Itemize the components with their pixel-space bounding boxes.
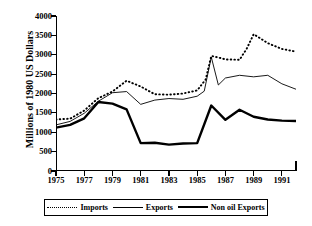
legend-item-exports: Exports xyxy=(113,203,173,212)
legend-label-imports: Imports xyxy=(80,203,108,212)
y-tick-label: 1500 xyxy=(16,108,52,117)
y-tick-label: 500 xyxy=(16,147,52,156)
legend-swatch-thick-line-icon xyxy=(178,205,208,211)
legend-label-exports: Exports xyxy=(146,203,173,212)
x-tick-label: 1991 xyxy=(262,176,302,185)
series-line-non-oil-exports xyxy=(56,102,296,145)
chart-legend: Imports Exports Non oil Exports xyxy=(44,199,268,216)
legend-label-non-oil-exports: Non oil Exports xyxy=(211,203,265,212)
legend-item-non-oil-exports: Non oil Exports xyxy=(178,203,265,212)
series-line-exports xyxy=(56,57,296,125)
legend-swatch-thin-line-icon xyxy=(113,205,143,211)
y-tick-label: 4000 xyxy=(16,12,52,21)
y-tick-label: 0 xyxy=(16,167,52,176)
y-tick-label: 1000 xyxy=(16,128,52,137)
chart-figure: Millions of 1980 US Dollars 050010001500… xyxy=(0,0,312,226)
legend-item-imports: Imports xyxy=(47,203,108,212)
y-tick-label: 3000 xyxy=(16,50,52,59)
chart-series-lines xyxy=(56,16,296,172)
y-tick-label: 2500 xyxy=(16,70,52,79)
y-tick-label: 3500 xyxy=(16,31,52,40)
legend-swatch-dotted-line-icon xyxy=(47,205,77,211)
y-tick-label: 2000 xyxy=(16,89,52,98)
